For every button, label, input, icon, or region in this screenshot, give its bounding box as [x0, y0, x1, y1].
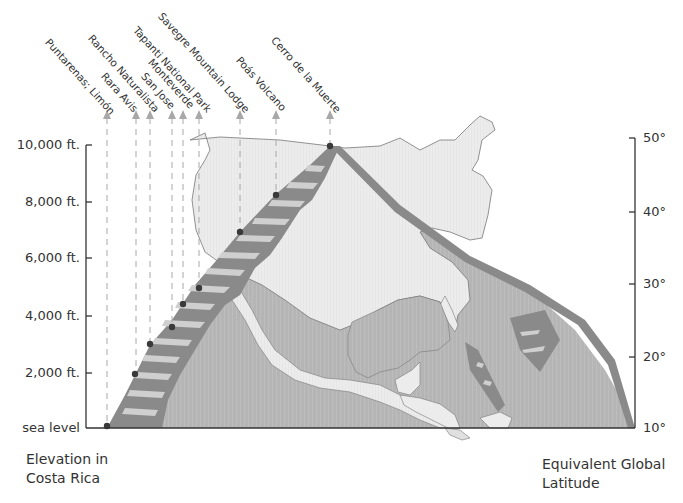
- right-tick-50: 50°: [643, 130, 666, 145]
- left-tick-4000: 4,000 ft.: [25, 308, 80, 323]
- right-caption-line1: Equivalent Global: [542, 455, 665, 474]
- map-region: [107, 116, 635, 440]
- left-tick-sea-level: sea level: [22, 420, 80, 435]
- dot-rara-avis: [132, 371, 138, 377]
- arrow-up-icon: [179, 110, 187, 119]
- right-caption-line2: Latitude: [542, 474, 665, 493]
- left-axis-caption: Elevation in Costa Rica: [26, 450, 108, 488]
- left-tick-2000: 2,000 ft.: [25, 365, 80, 380]
- elevation-latitude-diagram: 10,000 ft. 8,000 ft. 6,000 ft. 4,000 ft.…: [0, 0, 683, 503]
- right-tick-20: 20°: [643, 349, 666, 364]
- dot-savegre: [237, 229, 243, 235]
- dot-monteverde: [180, 301, 186, 307]
- dot-tapanti: [196, 285, 202, 291]
- left-caption-line1: Elevation in: [26, 450, 108, 469]
- dot-cerro-de-la-muerte: [327, 143, 333, 149]
- dot-san-jose: [169, 324, 175, 330]
- arrow-icons: [103, 110, 334, 119]
- left-tick-10000: 10,000 ft.: [17, 137, 80, 152]
- left-caption-line2: Costa Rica: [26, 469, 108, 488]
- right-tick-10: 10°: [643, 420, 666, 435]
- dot-rancho-naturalista: [147, 341, 153, 347]
- land-panama: [445, 428, 470, 440]
- right-tick-40: 40°: [643, 204, 666, 219]
- dot-poas: [273, 192, 279, 198]
- left-tick-8000: 8,000 ft.: [25, 194, 80, 209]
- arrow-up-icon: [168, 110, 176, 119]
- right-tick-30: 30°: [643, 276, 666, 291]
- left-tick-6000: 6,000 ft.: [25, 250, 80, 265]
- right-axis: [629, 138, 635, 428]
- right-axis-caption: Equivalent Global Latitude: [542, 455, 665, 493]
